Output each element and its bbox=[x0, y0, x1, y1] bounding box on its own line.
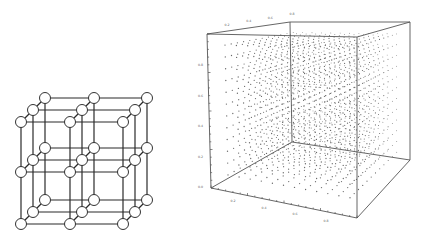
grid-point bbox=[340, 148, 341, 149]
grid-point bbox=[330, 117, 331, 118]
grid-point bbox=[268, 47, 269, 48]
grid-point bbox=[292, 44, 293, 45]
grid-point bbox=[304, 124, 305, 125]
grid-point bbox=[287, 77, 288, 78]
grid-point bbox=[344, 74, 345, 75]
grid-point bbox=[304, 111, 305, 112]
grid-point bbox=[285, 128, 286, 129]
grid-point bbox=[321, 32, 322, 33]
grid-point bbox=[326, 48, 327, 49]
grid-point bbox=[243, 126, 244, 127]
grid-point bbox=[261, 107, 262, 108]
grid-point bbox=[374, 117, 375, 118]
grid-point bbox=[302, 32, 303, 33]
grid-point bbox=[354, 63, 355, 64]
grid-point bbox=[319, 156, 320, 157]
grid-point bbox=[313, 53, 314, 54]
grid-point bbox=[293, 110, 294, 111]
grid-point bbox=[266, 145, 267, 146]
grid-point bbox=[271, 133, 272, 134]
grid-point bbox=[350, 161, 351, 162]
grid-point bbox=[227, 151, 228, 152]
grid-point bbox=[302, 41, 303, 42]
grid-point bbox=[309, 122, 310, 123]
grid-point bbox=[326, 115, 327, 116]
grid-point bbox=[324, 153, 325, 154]
grid-point bbox=[267, 72, 268, 73]
top-axis-tick-label: 0.4 bbox=[246, 19, 251, 23]
grid-point bbox=[355, 146, 356, 147]
grid-point bbox=[334, 154, 335, 155]
grid-point bbox=[308, 74, 309, 75]
grid-point bbox=[345, 67, 346, 68]
grid-point bbox=[387, 33, 388, 34]
grid-point bbox=[342, 86, 343, 87]
grid-point bbox=[378, 136, 379, 137]
grid-point bbox=[370, 42, 371, 43]
grid-point bbox=[278, 117, 279, 118]
grid-point bbox=[334, 58, 335, 59]
grid-point bbox=[354, 70, 355, 71]
grid-point bbox=[314, 113, 315, 114]
grid-point bbox=[310, 76, 311, 77]
grid-point bbox=[298, 126, 299, 127]
grid-point bbox=[313, 61, 314, 62]
grid-point bbox=[292, 56, 293, 57]
grid-point bbox=[349, 118, 350, 119]
grid-point bbox=[287, 84, 288, 85]
grid-point bbox=[227, 162, 228, 163]
grid-point bbox=[345, 153, 346, 154]
grid-point bbox=[329, 99, 330, 100]
grid-point bbox=[387, 87, 388, 88]
grid-point bbox=[368, 135, 369, 136]
grid-point bbox=[284, 125, 285, 126]
grid-point bbox=[270, 83, 271, 84]
grid-point bbox=[339, 151, 340, 152]
grid-point bbox=[334, 47, 335, 48]
grid-point bbox=[276, 69, 277, 70]
grid-point bbox=[344, 45, 345, 46]
grid-point bbox=[368, 106, 369, 107]
grid-point bbox=[255, 139, 256, 140]
grid-point bbox=[260, 119, 261, 120]
grid-point bbox=[293, 98, 294, 99]
grid-point bbox=[351, 170, 352, 171]
grid-point bbox=[254, 64, 255, 65]
grid-point bbox=[265, 42, 266, 43]
grid-point bbox=[342, 73, 343, 74]
grid-point bbox=[322, 121, 323, 122]
grid-point bbox=[326, 183, 327, 184]
grid-point bbox=[268, 68, 269, 69]
grid-point bbox=[329, 71, 330, 72]
edge-back-left bbox=[290, 22, 292, 142]
grid-point bbox=[375, 160, 376, 161]
grid-point bbox=[301, 136, 302, 137]
grid-point bbox=[262, 69, 263, 70]
grid-point bbox=[306, 33, 307, 34]
grid-point bbox=[331, 142, 332, 143]
grid-point bbox=[288, 92, 289, 93]
grid-point bbox=[262, 59, 263, 60]
grid-point bbox=[353, 74, 354, 75]
grid-point bbox=[354, 150, 355, 151]
grid-point bbox=[255, 151, 256, 152]
grid-point bbox=[349, 79, 350, 80]
grid-point bbox=[313, 50, 314, 51]
grid-point bbox=[351, 107, 352, 108]
grid-point bbox=[271, 63, 272, 64]
grid-point bbox=[269, 119, 270, 120]
grid-point bbox=[362, 185, 363, 186]
grid-point bbox=[363, 48, 364, 49]
grid-point bbox=[360, 175, 361, 176]
grid-point bbox=[239, 122, 240, 123]
grid-point bbox=[339, 83, 340, 84]
grid-point bbox=[274, 56, 275, 57]
grid-point bbox=[378, 103, 379, 104]
grid-point bbox=[320, 97, 321, 98]
grid-point bbox=[340, 33, 341, 34]
grid-point bbox=[387, 150, 388, 151]
grid-point bbox=[270, 58, 271, 59]
lattice-node bbox=[118, 167, 129, 178]
grid-point bbox=[349, 62, 350, 63]
grid-point bbox=[238, 110, 239, 111]
